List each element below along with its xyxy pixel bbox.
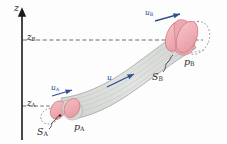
figure-canvas	[0, 0, 227, 144]
pA-label: pA	[74, 122, 84, 132]
SA-leader-dot	[59, 114, 61, 116]
u-label: u	[107, 74, 112, 82]
pB-label: pB	[184, 57, 195, 67]
uB-arrow-group	[155, 14, 180, 21]
uB-label: uB	[145, 9, 153, 18]
zB-label: zB	[27, 33, 35, 42]
uB-arrow	[155, 14, 180, 21]
uA-label: uA	[51, 84, 59, 93]
SB-label: SB	[152, 72, 163, 82]
zA-label: zA	[27, 99, 35, 108]
stream-tube-figure: z zB zA uA u uB SA SB pA pB	[0, 0, 227, 144]
section-B-front-disk	[172, 18, 202, 56]
z-axis-label: z	[14, 3, 19, 13]
SA-label: SA	[37, 127, 48, 137]
outlet-ghost-bottom-edge	[191, 50, 204, 53]
